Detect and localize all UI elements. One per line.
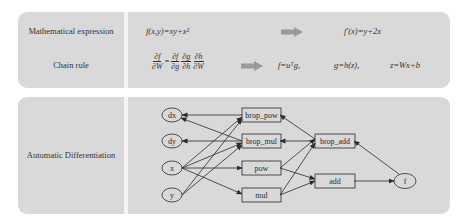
expression-output: f′(x)=y+2x: [344, 26, 381, 36]
math-expression-label: Mathematical expression: [18, 26, 124, 36]
chain-rule-label: Chain rule: [18, 60, 124, 70]
svg-text:f: f: [404, 177, 407, 186]
svg-text:x: x: [170, 164, 174, 173]
right-arrow-icon: [241, 61, 263, 71]
computation-graph: dx dy x y f brop_pow brop_mul pow: [18, 97, 450, 214]
svg-text:dy: dy: [168, 137, 176, 146]
node-dx: dx: [162, 108, 182, 122]
node-pow: pow: [242, 161, 281, 175]
formula-panel: Mathematical expression f(x,y)=xy+x² f′(…: [18, 12, 450, 88]
svg-text:y: y: [170, 191, 174, 200]
svg-text:brop_add: brop_add: [320, 137, 350, 146]
node-brop-pow: brop_pow: [242, 108, 281, 122]
node-dy: dy: [162, 134, 182, 148]
svg-text:pow: pow: [255, 164, 269, 173]
column-divider: [124, 12, 128, 88]
expression-input: f(x,y)=xy+x²: [146, 26, 189, 36]
right-arrow-icon: [281, 27, 303, 37]
svg-text:add: add: [329, 177, 341, 186]
definition-z: z=Wx+b: [390, 60, 420, 70]
node-y: y: [162, 188, 182, 202]
node-x: x: [162, 161, 182, 175]
node-f: f: [394, 174, 416, 189]
definition-f: f=uᵀg,: [278, 60, 300, 70]
autodiff-panel: Automatic Differentiation: [18, 97, 450, 214]
node-brop-mul: brop_mul: [242, 134, 281, 148]
node-brop-add: brop_add: [315, 134, 355, 148]
svg-text:dx: dx: [168, 111, 176, 120]
node-mul: mul: [242, 188, 281, 202]
node-add: add: [315, 174, 355, 188]
svg-text:mul: mul: [255, 191, 268, 200]
edges: [181, 115, 399, 195]
svg-text:brop_mul: brop_mul: [246, 137, 278, 146]
definition-g: g=h(z),: [334, 60, 359, 70]
chain-rule-equation: ∂f∂W = ∂f∂g ∂g∂h ∂h∂W: [151, 52, 205, 71]
svg-text:brop_pow: brop_pow: [245, 111, 278, 120]
